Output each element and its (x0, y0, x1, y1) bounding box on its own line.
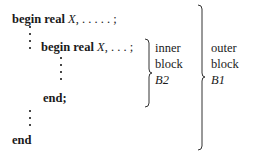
outer-label-line-2: block (211, 56, 239, 72)
outer-label-line-3: B1 (211, 72, 239, 88)
inner-label-line-1: inner (155, 40, 183, 56)
inner-brace-icon (145, 39, 152, 107)
outer-label-line-1: outer (211, 40, 239, 56)
outer-block-label: outer block B1 (211, 40, 239, 88)
inner-block-label: inner block B2 (155, 40, 183, 88)
inner-label-line-2: block (155, 56, 183, 72)
outer-brace-icon (198, 5, 205, 150)
inner-label-line-3: B2 (155, 72, 183, 88)
